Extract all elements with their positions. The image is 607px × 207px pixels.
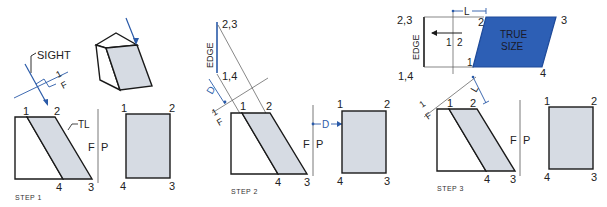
front-view: 1 2 4 3 (437, 97, 516, 185)
svg-text:2: 2 (478, 16, 484, 28)
isometric-block (96, 18, 152, 90)
sight-line: SIGHT 1 F (14, 49, 71, 106)
svg-text:L: L (468, 83, 481, 94)
svg-text:F: F (303, 138, 310, 150)
svg-text:F: F (510, 134, 517, 146)
svg-text:1: 1 (544, 95, 550, 107)
svg-text:3: 3 (384, 175, 390, 187)
svg-text:2: 2 (169, 102, 175, 114)
svg-text:4: 4 (484, 173, 490, 185)
svg-text:3: 3 (304, 176, 310, 188)
svg-text:L: L (464, 6, 470, 17)
step-caption: STEP 3 (437, 185, 464, 192)
svg-text:2: 2 (54, 105, 60, 117)
svg-text:1: 1 (23, 105, 29, 117)
svg-text:2: 2 (470, 97, 476, 109)
svg-text:3: 3 (591, 171, 597, 183)
svg-text:D: D (204, 84, 217, 96)
profile-view: 1 2 4 3 (544, 95, 597, 183)
svg-text:3: 3 (561, 14, 567, 26)
step-3: 2,3 1,4 EDGE 1 2 L TRUE SIZE 2 3 1 4 1 (397, 5, 597, 192)
svg-text:4: 4 (275, 176, 281, 188)
svg-text:1: 1 (240, 100, 246, 112)
svg-text:3: 3 (169, 180, 175, 192)
svg-text:F: F (215, 116, 225, 128)
svg-text:3: 3 (88, 181, 94, 193)
svg-text:2,3: 2,3 (222, 18, 237, 30)
svg-text:1: 1 (417, 99, 427, 110)
svg-text:P: P (316, 138, 323, 150)
svg-text:1: 1 (467, 57, 473, 68)
svg-text:4: 4 (540, 67, 546, 79)
edge-label: EDGE (205, 42, 215, 68)
edge-label: EDGE (411, 34, 421, 60)
svg-text:4: 4 (120, 180, 126, 192)
svg-text:2: 2 (384, 98, 390, 110)
profile-view: 1 2 4 3 (337, 98, 390, 187)
svg-text:F: F (88, 141, 95, 153)
svg-text:1: 1 (447, 97, 453, 109)
true-size-view: TRUE SIZE 2 3 1 4 (467, 14, 567, 79)
step-2: 2,3 1,4 EDGE 1 F D 1 2 4 3 F P D (204, 18, 390, 195)
auxiliary-view-diagram: SIGHT 1 F 1 2 4 3 TL F P 1 2 (0, 0, 607, 207)
svg-text:1: 1 (337, 98, 343, 110)
svg-text:4: 4 (56, 181, 62, 193)
svg-text:1: 1 (121, 102, 127, 114)
svg-text:TL: TL (78, 119, 90, 130)
svg-text:D: D (322, 119, 329, 130)
front-view: 1 2 4 3 TL (15, 105, 94, 193)
svg-text:P: P (101, 141, 108, 153)
svg-text:F: F (423, 110, 434, 122)
svg-text:F: F (59, 79, 69, 91)
svg-text:2: 2 (457, 37, 463, 48)
profile-view: 1 2 4 3 (120, 102, 175, 192)
step-caption: STEP 2 (231, 188, 258, 195)
step-caption: STEP 1 (15, 194, 42, 201)
svg-text:TRUE: TRUE (500, 29, 528, 40)
svg-text:2,3: 2,3 (397, 14, 412, 26)
front-view: 1 2 4 3 (231, 100, 310, 188)
svg-text:1,4: 1,4 (398, 70, 413, 82)
svg-text:1: 1 (210, 107, 219, 118)
svg-text:1,4: 1,4 (222, 70, 237, 82)
svg-text:4: 4 (337, 175, 343, 187)
step-1: SIGHT 1 F 1 2 4 3 TL F P 1 2 (14, 18, 175, 201)
svg-text:2: 2 (591, 95, 597, 107)
svg-text:3: 3 (510, 173, 516, 185)
svg-text:4: 4 (544, 171, 550, 183)
sight-label: SIGHT (37, 49, 71, 61)
svg-text:2: 2 (266, 100, 272, 112)
svg-text:SIZE: SIZE (501, 41, 524, 52)
svg-text:P: P (523, 134, 530, 146)
svg-text:1: 1 (446, 37, 452, 48)
